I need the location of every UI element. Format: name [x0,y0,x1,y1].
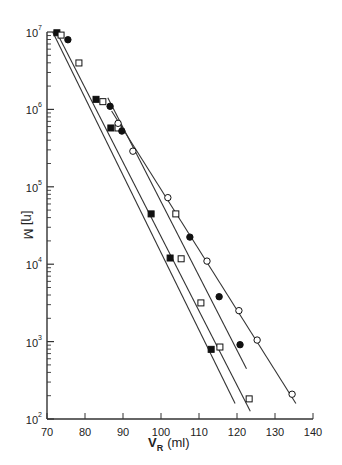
data-point-square-open [173,211,179,217]
x-tick-label: 120 [228,426,246,438]
x-tick-label: 90 [117,426,129,438]
axes: 708090100110120130140102103104105106107 [26,24,322,438]
x-tick-label: 130 [266,426,284,438]
data-point-circle-open [289,391,295,397]
chart: 708090100110120130140102103104105106107 … [0,0,342,465]
data-point-square-filled [208,346,214,352]
data-point-circle-filled [237,341,243,347]
data-point-square-filled [148,211,154,217]
data-point-circle-open [236,307,242,313]
data-point-circle-filled [65,37,71,43]
y-tick-label: 102 [26,411,42,426]
fit-line [112,111,296,404]
data-point-square-filled [108,125,114,131]
y-tick-label: 104 [26,256,42,271]
fit-line [57,32,251,411]
data-point-circle-filled [119,128,125,134]
data-point-circle-filled [187,234,193,240]
data-point-circle-open [204,258,210,264]
fit-lines [53,32,296,411]
x-tick-label: 70 [41,426,53,438]
y-tick-label: 107 [26,24,42,39]
y-tick-label: 106 [26,101,42,116]
data-point-circle-open [130,148,136,154]
axis-labels: VR(ml) [η] M [21,211,190,453]
data-point-square-filled [167,255,173,261]
data-point-circle-filled [107,103,113,109]
data-point-square-open [198,300,204,306]
x-tick-label: 80 [79,426,91,438]
data-point-square-open [100,99,106,105]
x-tick-label: 140 [304,426,322,438]
data-point-square-filled [93,96,99,102]
x-axis-label: VR(ml) [148,435,190,453]
data-point-square-open [58,32,64,38]
y-axis-label: [η] M [21,211,36,240]
data-point-circle-open [254,337,260,343]
data-point-square-open [178,256,184,262]
data-point-square-open [217,344,223,350]
x-tick-label: 110 [190,426,208,438]
data-point-circle-open [165,194,171,200]
y-tick-label: 105 [26,179,42,194]
data-point-circle-open [115,120,121,126]
data-point-square-open [246,396,252,402]
y-tick-label: 103 [26,334,42,349]
data-point-circle-filled [216,294,222,300]
data-point-square-open [76,60,82,66]
